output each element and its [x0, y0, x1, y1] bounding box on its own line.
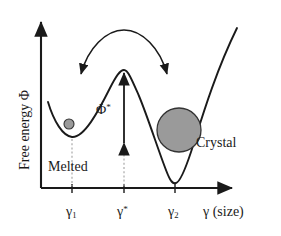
melted-particle: [64, 119, 74, 129]
y-axis-label: Free energy Φ: [18, 90, 32, 170]
tick-subscript: 1: [72, 210, 76, 220]
melted-phase-label: Melted: [48, 160, 88, 174]
tick-superscript: *: [123, 204, 128, 214]
transition-arrow-right: [124, 30, 167, 74]
x-tick-label-gamma2: γ2: [168, 205, 179, 220]
barrier-base: Φ: [96, 102, 106, 117]
transition-arrow-left: [81, 30, 124, 74]
barrier-superscript: *: [106, 102, 111, 112]
diagram-canvas: [0, 0, 281, 236]
free-energy-diagram: Free energy Φ γ (size) γ1 γ* γ2 Φ* Melte…: [0, 0, 281, 236]
x-tick-label-gamma-star: γ*: [117, 205, 128, 219]
crystal-particle: [157, 108, 201, 152]
crystal-phase-label: Crystal: [196, 136, 236, 150]
x-tick-label-gamma1: γ1: [66, 205, 77, 220]
tick-subscript: 2: [174, 210, 178, 220]
x-axis-label: γ (size): [203, 205, 244, 219]
barrier-height-label: Φ*: [96, 103, 111, 117]
